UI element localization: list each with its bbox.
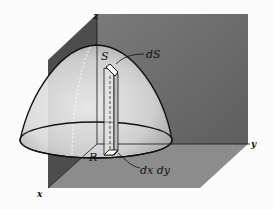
label-dxdy: dx dy: [140, 164, 171, 177]
label-ds: dS: [146, 48, 161, 61]
surface-area-figure: S dS R dx dy y x z: [0, 0, 273, 209]
label-x-axis: x: [36, 189, 43, 199]
column: [104, 68, 114, 155]
label-s: S: [101, 50, 109, 63]
label-r: R: [88, 151, 97, 164]
label-z-axis: z: [92, 11, 99, 21]
column-side: [114, 70, 118, 155]
label-y-axis: y: [250, 139, 257, 149]
